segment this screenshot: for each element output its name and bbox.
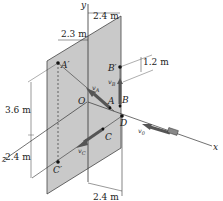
dim-top-right: 2.4 m xyxy=(93,11,119,21)
label-b-prime: B′ xyxy=(107,63,117,73)
point-c xyxy=(102,128,105,131)
dim-bottom: 2.4 m xyxy=(93,192,119,201)
label-c: C xyxy=(105,132,112,142)
dim-top-left: 2.3 m xyxy=(61,29,87,39)
label-v0: v0 xyxy=(138,127,146,136)
label-o: O xyxy=(78,96,86,106)
x-axis-label: x xyxy=(213,142,218,152)
diagram-canvas: y z x A′ B′ O A B C C′ D vA vB vC v0 2 xyxy=(0,0,223,201)
point-c-prime xyxy=(56,160,60,164)
dim-bottom-line xyxy=(88,183,122,191)
label-c-prime: C′ xyxy=(53,165,62,175)
label-a-prime: A′ xyxy=(60,60,70,70)
dim-left-upper: 3.6 m xyxy=(5,105,31,115)
dim-left-lower: 2.4 m xyxy=(5,152,31,162)
dim-right-small: 1.2 m xyxy=(143,57,169,67)
label-b: B xyxy=(121,95,129,105)
point-a xyxy=(109,107,112,110)
y-axis-label: y xyxy=(80,0,87,10)
label-d: D xyxy=(119,118,127,128)
label-a: A xyxy=(107,96,115,106)
dim-right-small-ext2 xyxy=(123,70,153,82)
point-b xyxy=(119,105,122,108)
